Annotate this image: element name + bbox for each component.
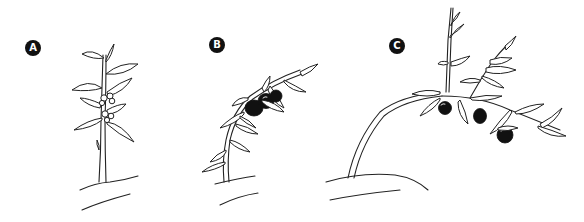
figure: A: [0, 0, 584, 222]
mature-plant-illustration: [0, 0, 584, 222]
panel-c: C: [0, 0, 584, 222]
